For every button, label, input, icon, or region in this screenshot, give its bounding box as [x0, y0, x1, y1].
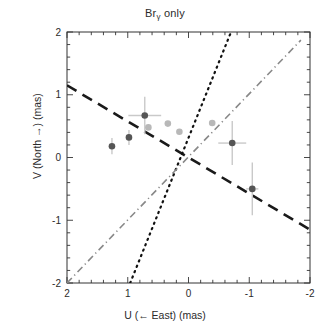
line-dashed [67, 85, 310, 229]
data-point [209, 120, 216, 127]
line-dashdot [67, 40, 301, 283]
line-dotted [130, 32, 231, 283]
plot-canvas: 210-1-2-2-1012 [0, 0, 330, 336]
x-tick-label: 0 [186, 288, 192, 299]
x-tick-label: -1 [245, 288, 254, 299]
y-tick-label: -1 [52, 215, 61, 226]
fit-lines [67, 32, 310, 283]
data-point [126, 134, 133, 141]
y-tick-label: 1 [55, 89, 61, 100]
data-point [176, 128, 183, 135]
data-point [229, 140, 236, 147]
data-point [165, 120, 172, 127]
y-tick-label: 0 [55, 152, 61, 163]
data-point [109, 143, 116, 150]
data-point [145, 124, 152, 131]
data-point [141, 112, 148, 119]
x-tick-label: 1 [125, 288, 131, 299]
error-bars [112, 97, 258, 216]
x-tick-label: -2 [306, 288, 315, 299]
x-tick-label: 2 [64, 288, 70, 299]
data-point [249, 186, 256, 193]
y-tick-label: -2 [52, 278, 61, 289]
figure-container: Brγ only V (North →) (mas) U (← East) (m… [0, 0, 330, 336]
y-tick-label: 2 [55, 27, 61, 38]
plot-svg: 210-1-2-2-1012 [0, 0, 330, 336]
